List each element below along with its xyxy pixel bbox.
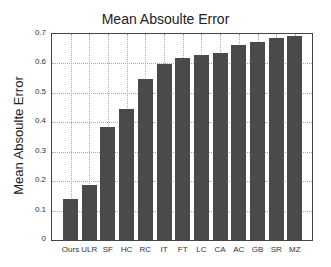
- y-tick-label: 0.3: [22, 146, 46, 155]
- y-tick-label: 0.7: [22, 28, 46, 37]
- y-axis-label: Mean Absoulte Error: [11, 56, 26, 216]
- y-tick-label: 0: [22, 234, 46, 243]
- y-tick-label: 0.2: [22, 175, 46, 184]
- y-tick-label: 0.5: [22, 87, 46, 96]
- y-tick-label: 0.1: [22, 205, 46, 214]
- y-tick-label: 0.6: [22, 57, 46, 66]
- chart-title: Mean Absoulte Error: [0, 11, 331, 27]
- y-tick-label: 0.4: [22, 116, 46, 125]
- bar-ft: [175, 58, 190, 240]
- bar-hc: [119, 109, 134, 240]
- bar-sf: [100, 127, 115, 240]
- bar-ours: [63, 199, 78, 240]
- bar-sr: [269, 38, 284, 240]
- bar-gb: [250, 42, 265, 240]
- bar-lc: [194, 55, 209, 240]
- bar-ulr: [82, 185, 97, 240]
- plot-area: [51, 33, 313, 241]
- bar-rc: [138, 79, 153, 240]
- bar-it: [157, 64, 172, 240]
- x-tick-label: MZ: [283, 245, 307, 254]
- bar-ac: [231, 45, 246, 240]
- bar-ca: [213, 53, 228, 240]
- bar-mz: [287, 36, 302, 240]
